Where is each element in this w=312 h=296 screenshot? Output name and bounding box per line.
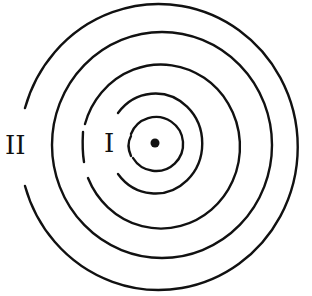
concentric-rings-diagram [0, 0, 312, 296]
ring-5 [25, 4, 298, 290]
nucleus-dot [151, 139, 160, 148]
ring-1-left-fragment [129, 136, 132, 156]
label-shell-ii: II [5, 132, 26, 158]
label-shell-i: I [104, 130, 114, 156]
ring-2 [118, 94, 202, 194]
ring-3-left-fragment [83, 132, 84, 162]
